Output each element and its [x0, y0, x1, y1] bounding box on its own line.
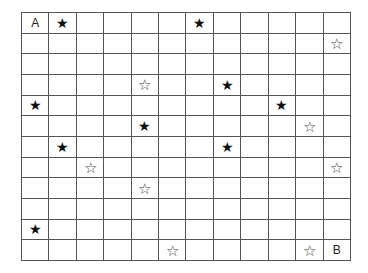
grid-cell[interactable] [49, 178, 76, 199]
grid-cell[interactable] [186, 220, 213, 241]
grid-cell[interactable] [186, 158, 213, 179]
grid-cell[interactable]: ★ [214, 137, 241, 158]
grid-cell[interactable] [22, 75, 49, 96]
grid-cell[interactable] [269, 199, 296, 220]
grid-cell[interactable]: ★ [22, 96, 49, 117]
grid-cell[interactable] [324, 96, 351, 117]
grid-cell[interactable]: ☆ [324, 158, 351, 179]
grid-cell[interactable] [77, 75, 104, 96]
grid-cell[interactable] [214, 54, 241, 75]
grid-cell[interactable] [269, 178, 296, 199]
grid-cell[interactable] [269, 158, 296, 179]
grid-cell[interactable]: ☆ [132, 178, 159, 199]
grid-cell[interactable] [241, 158, 268, 179]
grid-cell[interactable]: ☆ [296, 240, 323, 261]
grid-cell[interactable] [22, 34, 49, 55]
grid-cell[interactable] [159, 34, 186, 55]
grid-cell[interactable] [214, 96, 241, 117]
grid-cell[interactable]: A [22, 13, 49, 34]
grid-cell[interactable] [159, 116, 186, 137]
grid-cell[interactable] [296, 54, 323, 75]
grid-cell[interactable] [132, 54, 159, 75]
grid-cell[interactable] [296, 137, 323, 158]
grid-cell[interactable] [214, 13, 241, 34]
grid-cell[interactable] [324, 13, 351, 34]
grid-cell[interactable] [77, 240, 104, 261]
grid-cell[interactable] [159, 75, 186, 96]
grid-cell[interactable] [159, 199, 186, 220]
grid-cell[interactable] [49, 240, 76, 261]
grid-cell[interactable] [77, 34, 104, 55]
grid-cell[interactable] [241, 199, 268, 220]
grid-cell[interactable] [104, 178, 131, 199]
grid-cell[interactable] [104, 240, 131, 261]
grid-cell[interactable] [22, 199, 49, 220]
grid-cell[interactable] [186, 96, 213, 117]
grid-cell[interactable] [104, 34, 131, 55]
grid-cell[interactable] [296, 199, 323, 220]
grid-cell[interactable] [296, 220, 323, 241]
grid-cell[interactable] [186, 34, 213, 55]
grid-cell[interactable]: ★ [269, 96, 296, 117]
grid-cell[interactable] [241, 240, 268, 261]
grid-cell[interactable] [186, 199, 213, 220]
grid-cell[interactable] [269, 34, 296, 55]
grid-cell[interactable] [186, 178, 213, 199]
grid-cell[interactable] [132, 240, 159, 261]
grid-cell[interactable] [269, 240, 296, 261]
grid-cell[interactable]: ☆ [324, 34, 351, 55]
grid-cell[interactable] [49, 96, 76, 117]
grid-cell[interactable] [49, 158, 76, 179]
grid-cell[interactable] [49, 199, 76, 220]
grid-cell[interactable] [324, 220, 351, 241]
grid-cell[interactable] [77, 137, 104, 158]
grid-cell[interactable] [324, 137, 351, 158]
grid-cell[interactable] [77, 220, 104, 241]
grid-cell[interactable] [22, 158, 49, 179]
grid-cell[interactable] [132, 158, 159, 179]
grid-cell[interactable] [214, 199, 241, 220]
grid-cell[interactable] [296, 158, 323, 179]
grid-cell[interactable] [132, 34, 159, 55]
grid-cell[interactable] [77, 13, 104, 34]
grid-cell[interactable] [269, 137, 296, 158]
grid-cell[interactable] [269, 75, 296, 96]
grid-cell[interactable] [159, 13, 186, 34]
grid-cell[interactable] [104, 116, 131, 137]
grid-cell[interactable]: ★ [22, 220, 49, 241]
grid-cell[interactable] [186, 54, 213, 75]
grid-cell[interactable] [132, 137, 159, 158]
grid-cell[interactable] [186, 116, 213, 137]
grid-cell[interactable]: ★ [132, 116, 159, 137]
grid-cell[interactable]: ★ [49, 13, 76, 34]
grid-cell[interactable]: ☆ [159, 240, 186, 261]
grid-cell[interactable] [132, 13, 159, 34]
grid-cell[interactable] [241, 116, 268, 137]
grid-cell[interactable] [296, 13, 323, 34]
grid-cell[interactable] [159, 96, 186, 117]
grid-cell[interactable] [269, 13, 296, 34]
grid-cell[interactable] [159, 220, 186, 241]
grid-cell[interactable] [214, 178, 241, 199]
grid-cell[interactable] [241, 13, 268, 34]
grid-cell[interactable] [186, 240, 213, 261]
grid-cell[interactable] [241, 178, 268, 199]
grid-cell[interactable] [214, 220, 241, 241]
grid-cell[interactable] [296, 34, 323, 55]
grid-cell[interactable] [132, 96, 159, 117]
grid-cell[interactable] [159, 158, 186, 179]
grid-cell[interactable] [241, 137, 268, 158]
grid-cell[interactable] [22, 137, 49, 158]
grid-cell[interactable] [241, 54, 268, 75]
grid-cell[interactable] [22, 240, 49, 261]
grid-cell[interactable] [214, 158, 241, 179]
grid-cell[interactable] [186, 75, 213, 96]
grid-cell[interactable] [296, 75, 323, 96]
grid-cell[interactable] [324, 116, 351, 137]
grid-cell[interactable] [269, 54, 296, 75]
grid-cell[interactable] [49, 54, 76, 75]
grid-cell[interactable]: B [324, 240, 351, 261]
grid-cell[interactable] [77, 96, 104, 117]
grid-cell[interactable] [214, 116, 241, 137]
grid-cell[interactable] [104, 96, 131, 117]
